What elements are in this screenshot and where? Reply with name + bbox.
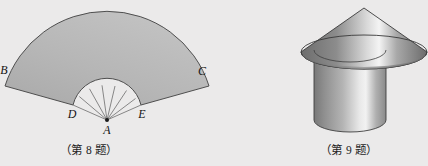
label-point-e: E xyxy=(137,107,146,121)
label-point-c: C xyxy=(198,64,207,78)
figure-fan-sector: B C D E A （第 8 题） xyxy=(0,0,214,166)
fan-sector-body xyxy=(5,11,209,105)
caption-figure-9: （第 9 题） xyxy=(242,141,428,157)
fan-sector-svg: B C D E A xyxy=(0,0,214,140)
caption-figure-8: （第 8 题） xyxy=(0,141,196,157)
page-canvas: B C D E A （第 8 题） xyxy=(0,0,428,166)
vertex-point-a xyxy=(105,118,109,122)
label-point-a: A xyxy=(102,123,111,137)
cone-cylinder-svg xyxy=(214,0,428,140)
cone-lateral-surface xyxy=(301,8,427,69)
label-point-d: D xyxy=(67,107,77,121)
label-point-b: B xyxy=(0,63,8,77)
figure-cone-cylinder: （第 9 题） xyxy=(214,0,428,166)
fan-radial-rays xyxy=(73,85,141,120)
